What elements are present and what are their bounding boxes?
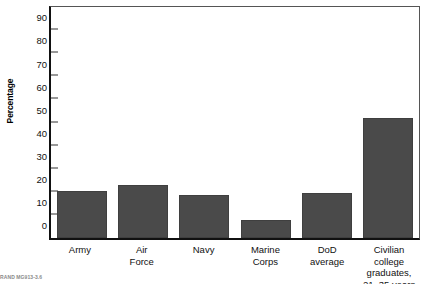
bar-marine-corps bbox=[241, 220, 291, 238]
bar-civilian-college-graduates-21-35-years bbox=[363, 118, 413, 238]
y-tick-50: 50 bbox=[36, 105, 51, 117]
x-label-civilian-college-graduates-21-35-years: Civilian collegegraduates,21–35 years bbox=[358, 244, 420, 284]
x-label-army: Army bbox=[49, 244, 111, 284]
y-tick-30: 30 bbox=[36, 151, 51, 163]
x-label-dod-average: DoDaverage bbox=[296, 244, 358, 284]
y-tick-label: 10 bbox=[36, 198, 51, 208]
y-tick-label: 80 bbox=[36, 36, 51, 46]
x-label-navy: Navy bbox=[173, 244, 235, 284]
bar-slot bbox=[358, 7, 419, 238]
y-tick-80: 80 bbox=[36, 35, 51, 47]
bar-army bbox=[57, 191, 107, 238]
y-tick-label: 90 bbox=[36, 13, 51, 23]
y-tick-label: 20 bbox=[36, 175, 51, 185]
y-tick-60: 60 bbox=[36, 81, 51, 93]
x-axis-tick-labels: ArmyAirForceNavyMarineCorpsDoDaverageCiv… bbox=[49, 244, 420, 284]
x-label-marine-corps: MarineCorps bbox=[234, 244, 296, 284]
y-tick-label: 50 bbox=[36, 106, 51, 116]
y-tick-10: 10 bbox=[36, 197, 51, 209]
x-label-air-force: AirForce bbox=[111, 244, 173, 284]
y-tick-0: 0 bbox=[42, 220, 51, 232]
y-tick-90: 90 bbox=[36, 12, 51, 24]
y-axis-title: Percentage bbox=[5, 65, 15, 137]
y-tick-label: 0 bbox=[42, 221, 51, 231]
bar-series bbox=[51, 7, 419, 238]
bar-slot bbox=[296, 7, 357, 238]
y-tick-70: 70 bbox=[36, 58, 51, 70]
bar-slot bbox=[112, 7, 173, 238]
y-tick-label: 30 bbox=[36, 152, 51, 162]
source-note: RAND MG913-3.6 bbox=[0, 274, 42, 280]
plot-area: 1009080706050403020100 bbox=[49, 6, 420, 240]
y-tick-20: 20 bbox=[36, 174, 51, 186]
y-tick-100: 100 bbox=[31, 0, 51, 1]
bar-navy bbox=[179, 195, 229, 238]
bar-slot bbox=[235, 7, 296, 238]
bar-dod-average bbox=[302, 193, 352, 238]
y-tick-label: 40 bbox=[36, 129, 51, 139]
y-tick-label: 60 bbox=[36, 83, 51, 93]
bar-air-force bbox=[118, 185, 168, 238]
bar-chart-figure: Percentage 1009080706050403020100 ArmyAi… bbox=[0, 0, 430, 284]
bar-slot bbox=[51, 7, 112, 238]
y-tick-label: 70 bbox=[36, 60, 51, 70]
y-tick-40: 40 bbox=[36, 128, 51, 140]
bar-slot bbox=[174, 7, 235, 238]
